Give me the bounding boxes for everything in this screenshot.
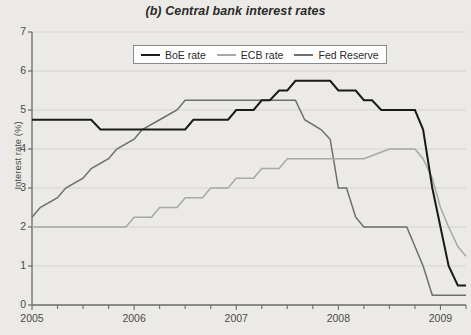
- x-tick-label: 2007: [213, 312, 259, 324]
- y-tick-label: 2: [4, 220, 26, 232]
- legend-item[interactable]: Fed Reserve: [294, 49, 378, 61]
- legend-swatch-icon: [141, 54, 160, 56]
- y-tick-label: 7: [4, 25, 26, 37]
- legend-item[interactable]: BoE rate: [141, 49, 206, 61]
- y-tick-label: 6: [4, 64, 26, 76]
- y-tick-label: 1: [4, 259, 26, 271]
- series-line: [32, 81, 466, 286]
- legend-swatch-icon: [217, 54, 236, 56]
- x-tick-label: 2009: [417, 312, 463, 324]
- y-tick-label: 4: [4, 142, 26, 154]
- x-axis-minor-ticks: [32, 305, 466, 310]
- x-tick-label: 2005: [9, 312, 55, 324]
- legend-label: ECB rate: [241, 49, 284, 61]
- y-tick-label: 0: [4, 298, 26, 310]
- legend-swatch-icon: [294, 54, 313, 56]
- x-tick-label: 2006: [111, 312, 157, 324]
- legend-item[interactable]: ECB rate: [217, 49, 284, 61]
- legend-label: BoE rate: [165, 49, 206, 61]
- legend-label: Fed Reserve: [318, 49, 378, 61]
- chart-legend: BoE rateECB rateFed Reserve: [133, 45, 387, 64]
- x-tick-label: 2008: [315, 312, 361, 324]
- y-tick-label: 5: [4, 103, 26, 115]
- chart-container: (b) Central bank interest rates Interest…: [0, 0, 471, 335]
- y-tick-label: 3: [4, 181, 26, 193]
